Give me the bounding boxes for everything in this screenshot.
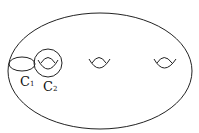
hole-1 (38, 58, 58, 70)
surface-outline (8, 13, 192, 129)
surface-diagram (0, 0, 199, 133)
hole-2 (89, 58, 110, 69)
label-c1-name: C (20, 74, 30, 89)
curve-c2 (34, 49, 62, 77)
curve-c1 (9, 57, 35, 71)
label-c1: C1 (20, 75, 34, 88)
label-c1-subscript: 1 (30, 80, 34, 88)
label-c2-subscript: 2 (53, 85, 57, 93)
hole-3 (154, 58, 176, 69)
label-c2-name: C (43, 79, 53, 94)
label-c2: C2 (43, 80, 57, 93)
